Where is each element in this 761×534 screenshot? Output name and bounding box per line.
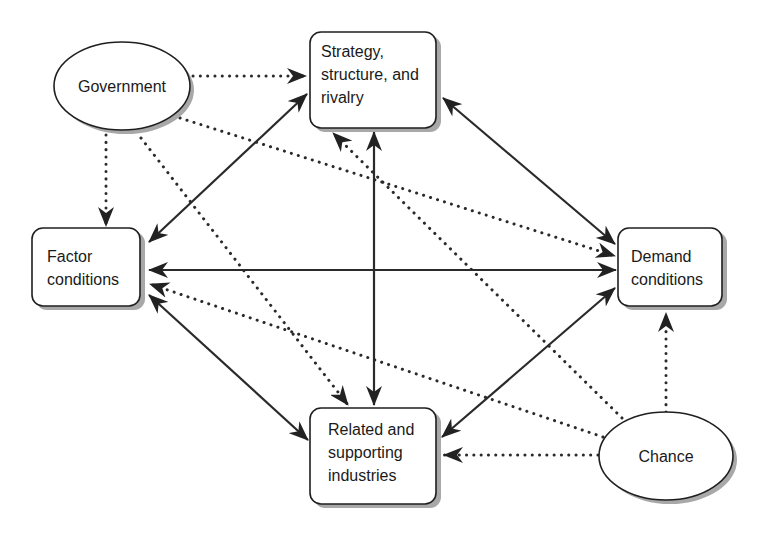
- porter-diamond-diagram: Government Strategy, structure, and riva…: [0, 0, 761, 534]
- strategy-label-line3: rivalry: [321, 89, 364, 106]
- edge-strategy-demand: [443, 98, 615, 244]
- edge-demand-related: [442, 288, 615, 437]
- node-factor: Factor conditions: [32, 228, 145, 310]
- related-label-line3: industries: [328, 467, 396, 484]
- demand-label-line1: Demand: [631, 248, 691, 265]
- node-chance: Chance: [599, 412, 737, 504]
- node-demand: Demand conditions: [618, 228, 727, 310]
- node-related: Related and supporting industries: [310, 408, 441, 508]
- strategy-label-line1: Strategy,: [321, 43, 384, 60]
- edge-factor-related: [149, 295, 308, 440]
- factor-label-line1: Factor: [47, 248, 93, 265]
- solid-edges: [149, 94, 616, 440]
- demand-label-line2: conditions: [631, 271, 703, 288]
- edge-government-demand: [180, 118, 615, 256]
- related-label-line1: Related and: [328, 421, 414, 438]
- node-government: Government: [54, 42, 194, 134]
- government-label: Government: [78, 78, 167, 95]
- strategy-label-line2: structure, and: [321, 66, 419, 83]
- edge-government-related: [141, 138, 348, 405]
- edge-chance-strategy: [333, 133, 622, 418]
- dotted-edges: [106, 76, 666, 455]
- chance-label: Chance: [638, 448, 693, 465]
- related-label-line2: supporting: [328, 444, 403, 461]
- factor-label-line2: conditions: [47, 271, 119, 288]
- node-strategy: Strategy, structure, and rivalry: [310, 32, 441, 132]
